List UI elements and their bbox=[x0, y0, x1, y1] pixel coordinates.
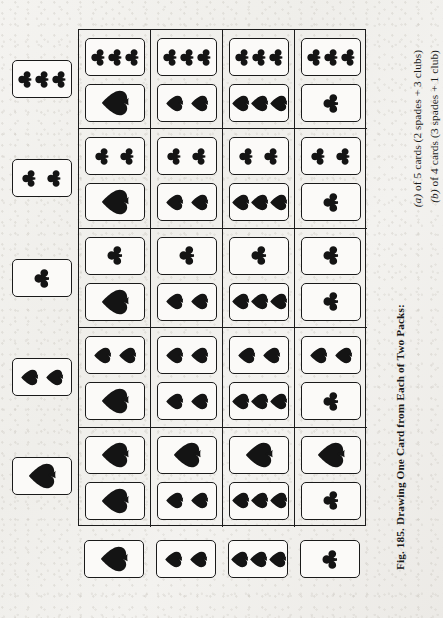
pack-a-card-3-clubs bbox=[12, 60, 72, 98]
spade-pip-icon bbox=[230, 550, 249, 569]
spade-pip-icon bbox=[99, 544, 129, 574]
outcome-card-from-pack-b bbox=[301, 84, 361, 122]
spade-pip-icon bbox=[237, 346, 256, 365]
outcome-card-from-pack-a bbox=[229, 237, 289, 275]
outcome-card-from-pack-b bbox=[157, 183, 217, 221]
outcome-card-from-pack-a bbox=[85, 436, 145, 474]
card-pips bbox=[230, 437, 288, 473]
outcome-cell-r1-c3 bbox=[223, 30, 295, 129]
spade-pip-icon bbox=[334, 346, 353, 365]
pack-a-card-1-club bbox=[12, 259, 72, 297]
spade-pip-icon bbox=[250, 193, 269, 212]
card-pips bbox=[302, 284, 360, 320]
spade-pip-icon bbox=[269, 491, 288, 510]
outcome-cell-r4-c2 bbox=[151, 328, 223, 427]
caption-b-text: of 4 cards (3 spades + 1 club) bbox=[428, 50, 440, 189]
outcome-cell-r4-c4 bbox=[295, 328, 367, 427]
caption-b-label: (b) bbox=[428, 189, 440, 202]
outcome-card-from-pack-b bbox=[229, 382, 289, 420]
card-pips bbox=[158, 337, 216, 373]
spade-pip-icon bbox=[190, 392, 209, 411]
outcome-card-from-pack-b bbox=[301, 382, 361, 420]
spade-pip-icon bbox=[45, 368, 64, 387]
outcome-card-from-pack-a bbox=[157, 137, 217, 175]
club-pip-icon bbox=[46, 170, 63, 187]
caption-a-text: of 5 cards (2 spades + 3 clubs) bbox=[411, 50, 423, 194]
spade-pip-icon bbox=[268, 550, 287, 569]
outcome-cell-r1-c1 bbox=[79, 30, 151, 129]
spade-pip-icon bbox=[165, 292, 184, 311]
club-pip-icon bbox=[162, 49, 179, 66]
outcome-card-from-pack-b bbox=[301, 183, 361, 221]
card-pips bbox=[86, 483, 144, 519]
club-pip-icon bbox=[119, 148, 136, 165]
club-pip-icon bbox=[21, 170, 38, 187]
outcome-card-from-pack-a bbox=[229, 137, 289, 175]
card-pips bbox=[13, 61, 71, 97]
spade-pip-icon bbox=[190, 491, 209, 510]
outcome-cell-r4-c3 bbox=[223, 328, 295, 427]
club-pip-icon bbox=[196, 49, 213, 66]
outcome-card-from-pack-a bbox=[301, 137, 361, 175]
outcome-card-from-pack-a bbox=[229, 38, 289, 76]
card-pips bbox=[158, 39, 216, 75]
spade-pip-icon bbox=[100, 187, 130, 217]
club-pip-icon bbox=[322, 246, 341, 265]
card-pips bbox=[86, 437, 144, 473]
spade-pip-icon bbox=[100, 486, 130, 516]
outcome-card-from-pack-b bbox=[229, 84, 289, 122]
card-pips bbox=[158, 284, 216, 320]
card-pips bbox=[302, 337, 360, 373]
club-pip-icon bbox=[179, 49, 196, 66]
spade-pip-icon bbox=[165, 193, 184, 212]
outcome-card-from-pack-a bbox=[85, 137, 145, 175]
pack-a-card-2-clubs bbox=[12, 159, 72, 197]
spade-pip-icon bbox=[231, 392, 250, 411]
club-pip-icon bbox=[268, 49, 285, 66]
spade-pip-icon bbox=[269, 392, 288, 411]
card-pips bbox=[230, 85, 288, 121]
outcome-cell-r4-c1 bbox=[79, 328, 151, 427]
outcome-card-from-pack-a bbox=[301, 336, 361, 374]
outcome-card-from-pack-a bbox=[85, 38, 145, 76]
card-pips bbox=[158, 437, 216, 473]
club-pip-icon bbox=[107, 49, 124, 66]
spade-pip-icon bbox=[231, 292, 250, 311]
spade-pip-icon bbox=[316, 440, 346, 470]
spade-pip-icon bbox=[250, 392, 269, 411]
card-pips bbox=[230, 284, 288, 320]
outcome-card-from-pack-b bbox=[229, 283, 289, 321]
spade-pip-icon bbox=[190, 292, 209, 311]
club-pip-icon bbox=[306, 49, 323, 66]
spade-pip-icon bbox=[165, 392, 184, 411]
spade-pip-icon bbox=[165, 491, 184, 510]
card-pips bbox=[13, 458, 71, 494]
outcome-cell-r5-c4 bbox=[295, 428, 367, 527]
outcome-card-from-pack-a bbox=[301, 237, 361, 275]
outcome-card-from-pack-b bbox=[85, 382, 145, 420]
outcome-cell-r3-c4 bbox=[295, 229, 367, 328]
caption-a-label: (a) bbox=[411, 194, 423, 207]
spade-pip-icon bbox=[231, 491, 250, 510]
card-pips bbox=[13, 359, 71, 395]
outcome-card-from-pack-b bbox=[157, 382, 217, 420]
club-pip-icon bbox=[166, 148, 183, 165]
card-pips bbox=[86, 238, 144, 274]
card-pips bbox=[86, 284, 144, 320]
pack-b-card-2-spades bbox=[156, 540, 216, 578]
spade-pip-icon bbox=[262, 346, 281, 365]
outcome-cell-r1-c2 bbox=[151, 30, 223, 129]
spade-pip-icon bbox=[190, 346, 209, 365]
spade-pip-icon bbox=[269, 193, 288, 212]
card-pips bbox=[230, 337, 288, 373]
club-pip-icon bbox=[251, 49, 268, 66]
spade-pip-icon bbox=[93, 346, 112, 365]
spade-pip-icon bbox=[269, 292, 288, 311]
outcome-card-from-pack-b bbox=[85, 84, 145, 122]
card-pips bbox=[86, 39, 144, 75]
spade-pip-icon bbox=[165, 346, 184, 365]
outcome-card-from-pack-b bbox=[229, 183, 289, 221]
caption-line-1: Fig. 185. Drawing One Card from Each of … bbox=[392, 50, 409, 570]
club-pip-icon bbox=[310, 148, 327, 165]
outcome-matrix bbox=[78, 29, 366, 526]
